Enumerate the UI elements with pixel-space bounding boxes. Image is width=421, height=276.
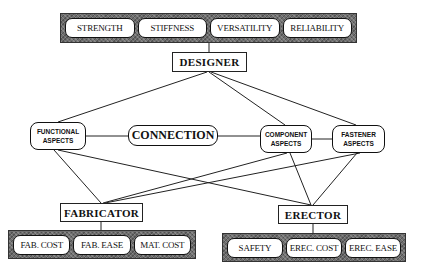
fastener-aspects-line2: ASPECTS <box>343 139 374 148</box>
criterion-reliability: RELIABILITY <box>283 18 353 38</box>
criterion-strength: STRENGTH <box>65 18 135 38</box>
fastener-aspects-node: FASTENER ASPECTS <box>332 125 385 153</box>
criterion-versatility: VERSATILITY <box>210 18 280 38</box>
functional-aspects-node: FUNCTIONAL ASPECTS <box>30 122 86 150</box>
erector-node: ERECTOR <box>278 205 348 224</box>
connection-node: CONNECTION <box>128 125 218 146</box>
component-aspects-line2: ASPECTS <box>271 139 302 148</box>
mat-cost: MAT. COST <box>134 235 191 255</box>
design-criteria-banner: STRENGTH STIFFNESS VERSATILITY RELIABILI… <box>60 13 357 43</box>
erec-cost: EREC. COST <box>286 238 342 258</box>
component-aspects-line1: COMPONENT <box>265 130 307 139</box>
erec-ease: EREC. EASE <box>345 238 401 258</box>
fab-ease: FAB. EASE <box>73 235 130 255</box>
fab-cost: FAB. COST <box>13 235 70 255</box>
functional-aspects-line1: FUNCTIONAL <box>37 127 79 136</box>
criterion-stiffness: STIFFNESS <box>138 18 208 38</box>
component-aspects-node: COMPONENT ASPECTS <box>260 125 312 153</box>
safety: SAFETY <box>227 238 283 258</box>
functional-aspects-line2: ASPECTS <box>43 136 74 145</box>
fastener-aspects-line1: FASTENER <box>341 130 376 139</box>
erector-criteria-banner: SAFETY EREC. COST EREC. EASE <box>222 233 406 262</box>
fabricator-criteria-banner: FAB. COST FAB. EASE MAT. COST <box>8 230 196 259</box>
designer-node: DESIGNER <box>172 52 247 72</box>
fabricator-node: FABRICATOR <box>60 203 143 222</box>
